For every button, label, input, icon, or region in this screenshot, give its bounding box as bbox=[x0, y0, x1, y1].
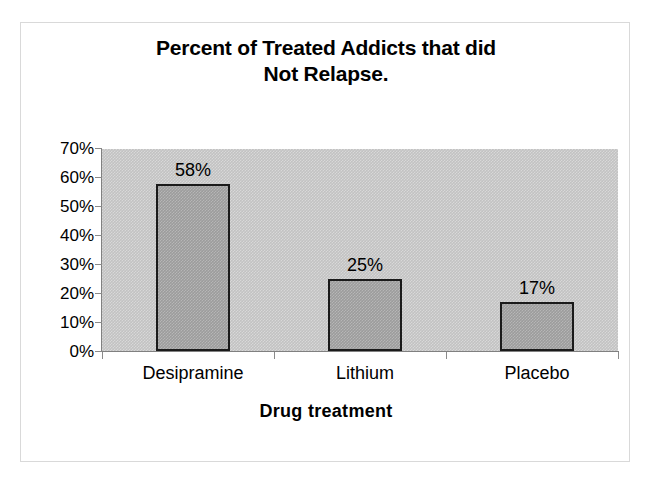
y-tick-label-50: 50% bbox=[34, 198, 94, 215]
category-label-lithium: Lithium bbox=[285, 363, 445, 383]
y-tick-label-60: 60% bbox=[34, 169, 94, 186]
category-label-desipramine: Desipramine bbox=[113, 363, 273, 383]
x-axis-line bbox=[101, 351, 619, 352]
y-tick-label-20: 20% bbox=[34, 285, 94, 302]
y-tick-label-70: 70% bbox=[34, 140, 94, 157]
chart-title-line-2: Not Relapse. bbox=[21, 61, 631, 87]
bar-lithium[interactable] bbox=[328, 279, 402, 351]
y-tick-mark-70 bbox=[95, 148, 102, 149]
bar-value-label-placebo: 17% bbox=[497, 279, 577, 297]
y-tick-mark-40 bbox=[95, 235, 102, 236]
x-tick-mark-1 bbox=[274, 352, 275, 359]
category-label-placebo: Placebo bbox=[457, 363, 617, 383]
bar-placebo[interactable] bbox=[500, 302, 574, 351]
x-tick-mark-2 bbox=[446, 352, 447, 359]
x-tick-mark-3 bbox=[618, 352, 619, 359]
y-tick-mark-50 bbox=[95, 206, 102, 207]
y-tick-label-40: 40% bbox=[34, 227, 94, 244]
y-tick-mark-10 bbox=[95, 322, 102, 323]
bar-desipramine[interactable] bbox=[156, 184, 230, 351]
y-tick-label-0: 0% bbox=[34, 343, 94, 360]
y-tick-mark-60 bbox=[95, 177, 102, 178]
chart-title-line-1: Percent of Treated Addicts that did bbox=[21, 35, 631, 61]
bar-value-label-lithium: 25% bbox=[325, 256, 405, 274]
chart-frame: Percent of Treated Addicts that did Not … bbox=[20, 22, 630, 462]
x-axis-title: Drug treatment bbox=[21, 401, 631, 422]
y-tick-mark-20 bbox=[95, 293, 102, 294]
y-tick-label-10: 10% bbox=[34, 314, 94, 331]
bar-value-label-desipramine: 58% bbox=[153, 161, 233, 179]
y-tick-mark-0 bbox=[95, 351, 102, 352]
y-tick-label-30: 30% bbox=[34, 256, 94, 273]
y-tick-mark-30 bbox=[95, 264, 102, 265]
chart-title: Percent of Treated Addicts that did Not … bbox=[21, 35, 631, 87]
x-tick-mark-0 bbox=[102, 352, 103, 359]
